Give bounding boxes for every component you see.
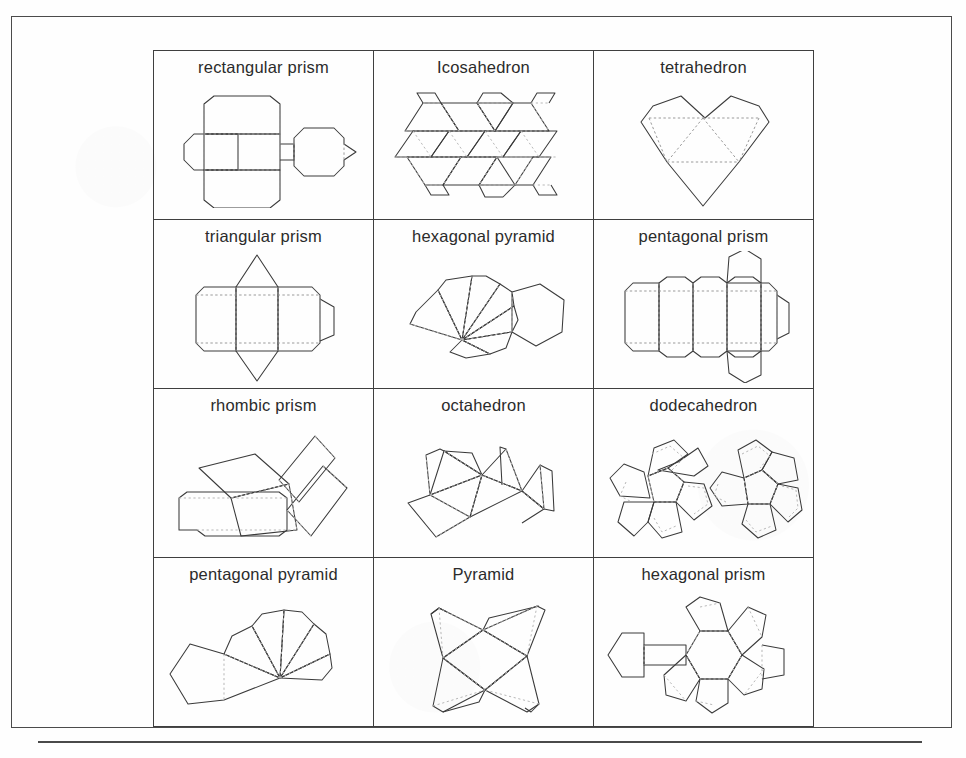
table-row: triangular prism — [154, 220, 814, 389]
cell-label: dodecahedron — [650, 396, 758, 414]
cell-label: Icosahedron — [437, 58, 530, 76]
table-row: rectangular prism — [154, 51, 814, 220]
net-triangular-prism — [154, 245, 373, 388]
net-dodecahedron — [594, 414, 813, 557]
footer-divider-rule — [38, 741, 922, 743]
net-pentagonal-pyramid — [154, 583, 373, 726]
page-canvas: rectangular prism — [0, 0, 966, 758]
table-row: pentagonal pyramid — [154, 558, 814, 727]
net-pyramid — [374, 583, 593, 726]
cell-label: tetrahedron — [660, 58, 747, 76]
table-cell-triangular-prism[interactable]: triangular prism — [154, 220, 374, 389]
table-cell-octahedron[interactable]: octahedron — [374, 389, 594, 558]
net-hexagonal-prism — [594, 583, 813, 726]
table-cell-tetrahedron[interactable]: tetrahedron — [594, 51, 814, 220]
cell-label: hexagonal prism — [641, 565, 765, 583]
table-cell-pentagonal-prism[interactable]: pentagonal prism — [594, 220, 814, 389]
cell-label: Pyramid — [453, 565, 515, 583]
table-cell-icosahedron[interactable]: Icosahedron — [374, 51, 594, 220]
net-rectangular-prism — [154, 76, 373, 219]
cell-label: rhombic prism — [210, 396, 316, 414]
table-cell-hexagonal-prism[interactable]: hexagonal prism — [594, 558, 814, 727]
net-pentagonal-prism — [594, 245, 813, 388]
cell-label: pentagonal prism — [639, 227, 769, 245]
table-row: rhombic prism — [154, 389, 814, 558]
table-cell-rectangular-prism[interactable]: rectangular prism — [154, 51, 374, 220]
table-cell-hexagonal-pyramid[interactable]: hexagonal pyramid — [374, 220, 594, 389]
cell-label: hexagonal pyramid — [412, 227, 555, 245]
nets-table-wrapper: rectangular prism — [153, 50, 810, 724]
table-cell-pentagonal-pyramid[interactable]: pentagonal pyramid — [154, 558, 374, 727]
table-cell-pyramid[interactable]: Pyramid — [374, 558, 594, 727]
table-cell-rhombic-prism[interactable]: rhombic prism — [154, 389, 374, 558]
cell-label: pentagonal pyramid — [189, 565, 338, 583]
table-cell-dodecahedron[interactable]: dodecahedron — [594, 389, 814, 558]
net-hexagonal-pyramid — [374, 245, 593, 388]
net-tetrahedron — [594, 76, 813, 219]
net-icosahedron — [374, 76, 593, 219]
cell-label: rectangular prism — [198, 58, 329, 76]
nets-table: rectangular prism — [153, 50, 814, 727]
cell-label: triangular prism — [205, 227, 322, 245]
net-octahedron — [374, 414, 593, 557]
net-rhombic-prism — [154, 414, 373, 557]
cell-label: octahedron — [441, 396, 526, 414]
